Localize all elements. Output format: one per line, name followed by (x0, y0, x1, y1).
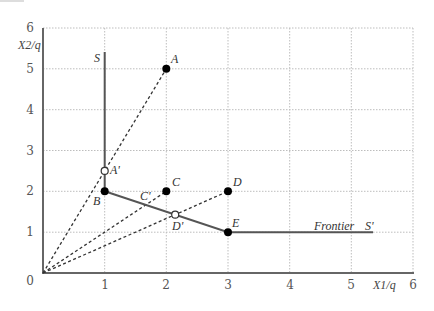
y-tick-2: 2 (26, 184, 34, 198)
point-B (101, 187, 109, 195)
label-A: A (170, 52, 179, 66)
x-tick-4: 4 (286, 278, 294, 292)
origin-tick: 0 (26, 274, 34, 288)
chart: 6 5 4 3 2 1 0 1 2 3 4 5 6 X2/q X1/q S A … (0, 0, 434, 311)
label-S: S (94, 51, 100, 65)
label-D: D (232, 175, 242, 189)
point-A-prime (101, 167, 108, 174)
label-D-prime: D' (171, 219, 184, 233)
point-C (162, 187, 170, 195)
x-tick-6: 6 (409, 278, 417, 292)
point-D-prime (172, 211, 179, 218)
point-A (162, 65, 170, 73)
x-tick-2: 2 (162, 278, 170, 292)
x-tick-5: 5 (347, 278, 355, 292)
y-tick-3: 3 (26, 144, 34, 158)
y-tick-5: 5 (26, 62, 34, 76)
y-tick-4: 4 (26, 103, 34, 117)
label-frontier: Frontier (313, 219, 355, 233)
label-S-prime: S' (365, 219, 374, 233)
label-E: E (231, 216, 240, 230)
x-tick-3: 3 (224, 278, 232, 292)
label-C-prime: C' (140, 189, 151, 203)
point-E (224, 228, 232, 236)
y-tick-1: 1 (26, 225, 34, 239)
x-tick-1: 1 (101, 278, 109, 292)
y-tick-6: 6 (26, 21, 34, 35)
label-B: B (93, 194, 101, 208)
frontier-line (105, 52, 373, 232)
label-C: C (172, 175, 181, 189)
y-tick-labels: 6 5 4 3 2 1 0 (26, 21, 34, 288)
point-D (224, 187, 232, 195)
label-A-prime: A' (109, 163, 120, 177)
y-axis-label: X2/q (17, 38, 41, 52)
x-tick-labels: 1 2 3 4 5 6 (101, 278, 417, 292)
x-axis-label: X1/q (372, 278, 396, 292)
